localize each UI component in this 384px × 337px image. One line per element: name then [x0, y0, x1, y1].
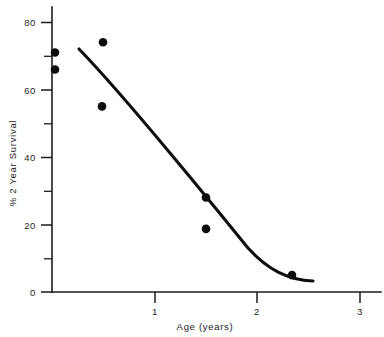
data-point	[202, 225, 211, 234]
x-tick-label-1: 1	[152, 306, 158, 317]
y-axis-title: % 2 Year Survival	[7, 120, 18, 206]
data-point	[98, 102, 107, 111]
data-point	[202, 193, 211, 202]
data-point	[51, 65, 60, 74]
y-tick-label-0: 0	[30, 287, 36, 298]
data-point	[288, 271, 297, 280]
y-axis-tick-labels: 80 60 40 20 0	[24, 17, 36, 298]
x-axis-title: Age (years)	[177, 321, 234, 332]
data-point	[99, 38, 108, 47]
y-tick-label-60: 60	[24, 85, 36, 96]
y-axis-ticks	[41, 23, 52, 293]
y-tick-label-20: 20	[24, 220, 36, 231]
fitted-survival-curve	[79, 49, 313, 281]
data-point	[51, 48, 60, 57]
x-axis-tick-labels: 1 2 3	[152, 306, 363, 317]
y-tick-label-80: 80	[24, 17, 36, 28]
survival-scatter-chart: 80 60 40 20 0 1 2 3	[0, 0, 384, 337]
x-tick-label-3: 3	[357, 306, 363, 317]
x-tick-label-2: 2	[254, 306, 260, 317]
chart-canvas: 80 60 40 20 0 1 2 3	[0, 0, 384, 337]
y-tick-label-40: 40	[24, 152, 36, 163]
x-axis-ticks	[155, 292, 360, 303]
axis-lines	[52, 7, 381, 292]
